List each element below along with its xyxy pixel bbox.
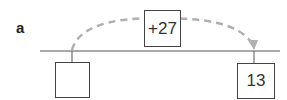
start-value-box[interactable] (55, 62, 90, 98)
arrowhead-icon (248, 40, 258, 50)
operation-box: +27 (144, 10, 181, 47)
end-value-box: 13 (237, 63, 275, 99)
part-label: a (16, 19, 24, 36)
